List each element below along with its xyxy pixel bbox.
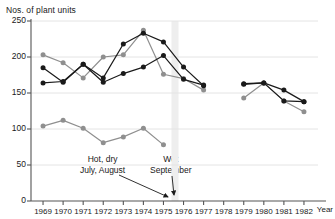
- data-point: [101, 75, 106, 80]
- data-point: [261, 80, 266, 85]
- data-point: [301, 109, 306, 114]
- data-point: [181, 77, 186, 82]
- data-point: [161, 72, 166, 77]
- highlight-band: [171, 21, 178, 201]
- data-point: [81, 62, 86, 67]
- data-point: [101, 80, 106, 85]
- data-point: [161, 53, 166, 58]
- data-point: [141, 31, 146, 36]
- hot-dry-arrow: [119, 175, 168, 197]
- data-point: [281, 88, 286, 93]
- series-line: [43, 30, 204, 90]
- data-point: [101, 140, 106, 145]
- data-point: [181, 65, 186, 70]
- data-point: [41, 52, 46, 57]
- data-point: [161, 39, 166, 44]
- data-point: [281, 98, 286, 103]
- data-point: [241, 82, 246, 87]
- data-point: [101, 55, 106, 60]
- series-line: [244, 83, 304, 112]
- data-point: [201, 83, 206, 88]
- data-point: [141, 126, 146, 131]
- data-point: [121, 52, 126, 57]
- data-point: [241, 96, 246, 101]
- data-point: [301, 99, 306, 104]
- data-point: [61, 79, 66, 84]
- data-point: [41, 80, 46, 85]
- data-point: [141, 65, 146, 70]
- data-point: [121, 71, 126, 76]
- series-line: [43, 56, 204, 86]
- data-point: [61, 60, 66, 65]
- data-point: [201, 88, 206, 93]
- data-point: [81, 126, 86, 131]
- data-point: [121, 134, 126, 139]
- series-line: [244, 83, 304, 102]
- data-point: [121, 42, 126, 47]
- data-point: [41, 65, 46, 70]
- data-point: [161, 142, 166, 147]
- line-chart-plot: [0, 0, 335, 219]
- chart-container: Nos. of plant units Year 050100150200250…: [0, 0, 335, 219]
- data-point: [81, 75, 86, 80]
- data-point: [61, 118, 66, 123]
- data-point: [41, 124, 46, 129]
